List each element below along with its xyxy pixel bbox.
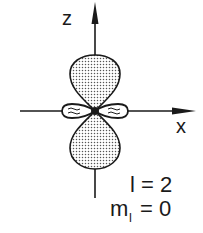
nucleus-node [91,107,99,115]
orbital-diagram: z x l = 2 m l = 0 [0,0,203,233]
x-axis-label: x [176,115,186,137]
z-axis-arrow-icon [92,2,99,24]
ml-value: = 0 [134,196,171,221]
z-axis-label: z [62,7,72,29]
lower-lobe [70,111,120,169]
l-quantum-number: l = 2 [130,172,172,197]
ml-symbol: m [110,196,128,221]
ml-subscript: l [129,210,132,225]
ml-quantum-number: m l = 0 [110,196,171,225]
upper-lobe [70,55,120,111]
x-axis-arrow-icon [172,108,196,115]
